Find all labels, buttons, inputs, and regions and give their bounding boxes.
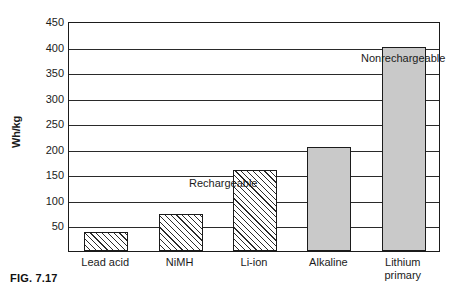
x-axis-category-labels: Lead acidNiMHLi-ionAlkalineLithium prima… xyxy=(68,256,440,294)
x-axis-category-label: NiMH xyxy=(142,256,216,269)
y-axis-tick-label: 250 xyxy=(36,119,64,130)
annotation-nonrechargeable: Nonrechargeable xyxy=(361,52,445,64)
y-axis-tick-label: 450 xyxy=(36,17,64,28)
y-axis-tick-label: 50 xyxy=(36,221,64,232)
annotation-rechargeable: Rechargeable xyxy=(189,177,258,189)
bar xyxy=(84,232,128,251)
bar xyxy=(307,147,351,251)
y-axis-title: Wh/kg xyxy=(10,88,22,148)
figure-container: Wh/kg 45040035030025020015010050 Recharg… xyxy=(0,0,455,294)
bar xyxy=(159,214,203,251)
x-axis-category-label: Lead acid xyxy=(68,256,142,269)
y-axis-tick-label: 300 xyxy=(36,94,64,105)
y-axis-tick-labels: 45040035030025020015010050 xyxy=(30,22,64,252)
x-axis-category-label: Lithium primary xyxy=(366,256,440,282)
y-axis-tick-label: 400 xyxy=(36,43,64,54)
x-axis-category-label: Alkaline xyxy=(291,256,365,269)
figure-caption: FIG. 7.17 xyxy=(10,272,58,284)
y-axis-tick-label: 200 xyxy=(36,145,64,156)
plot-area: Rechargeable Nonrechargeable xyxy=(68,22,440,252)
y-axis-tick-label: 100 xyxy=(36,196,64,207)
x-axis-category-label: Li-ion xyxy=(217,256,291,269)
y-axis-tick-label: 150 xyxy=(36,170,64,181)
y-axis-tick-label: 350 xyxy=(36,68,64,79)
bar xyxy=(382,47,426,251)
